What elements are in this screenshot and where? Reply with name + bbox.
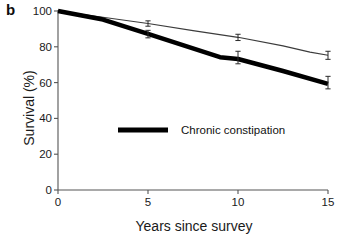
data-series (58, 11, 331, 89)
plot-area (0, 0, 337, 245)
axes (54, 10, 328, 194)
legend-item-label: Chronic constipation (181, 124, 285, 136)
survival-curve-figure: b Survival (%) Years since survey 020406… (0, 0, 337, 245)
